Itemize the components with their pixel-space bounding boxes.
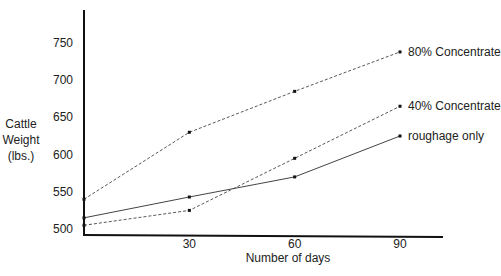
y-tick-label: 650 [53, 110, 73, 124]
data-point-marker [293, 175, 296, 178]
data-point-marker [83, 224, 86, 227]
y-axis-label-line: (lbs.) [8, 149, 35, 163]
series-roughage-only: roughage only [83, 129, 485, 219]
series-line [84, 106, 400, 225]
data-point-marker [293, 157, 296, 160]
series-label: roughage only [408, 129, 484, 143]
data-point-marker [399, 105, 402, 108]
series-label: 80% Concentrate [408, 45, 501, 59]
x-tick-label: 90 [393, 237, 407, 251]
axes [83, 10, 443, 237]
x-tick-labels: 306090 [183, 237, 407, 251]
data-point-marker [188, 196, 191, 199]
line-chart: 500550600650700750 306090 CattleWeight(l… [0, 0, 501, 276]
y-axis-label-line: Weight [2, 133, 40, 147]
data-point-marker [399, 135, 402, 138]
data-point-marker [399, 50, 402, 53]
y-axis-label-line: Cattle [5, 117, 37, 131]
y-tick-label: 500 [53, 222, 73, 236]
series-line [84, 52, 400, 199]
x-tick-label: 60 [288, 237, 302, 251]
y-tick-label: 700 [53, 73, 73, 87]
series-line [84, 136, 400, 218]
series-lines: 80% Concentrate40% Concentrateroughage o… [83, 45, 501, 227]
x-axis-label: Number of days [246, 251, 331, 265]
y-tick-label: 600 [53, 148, 73, 162]
data-point-marker [188, 209, 191, 212]
x-axis [83, 235, 443, 237]
data-point-marker [83, 216, 86, 219]
data-point-marker [188, 131, 191, 134]
y-tick-label: 750 [53, 36, 73, 50]
data-point-marker [83, 198, 86, 201]
y-axis-label: CattleWeight(lbs.) [2, 117, 40, 163]
series-label: 40% Concentrate [408, 99, 501, 113]
y-tick-label: 550 [53, 185, 73, 199]
y-tick-labels: 500550600650700750 [53, 36, 73, 236]
data-point-marker [293, 90, 296, 93]
series-40-concentrate: 40% Concentrate [83, 99, 501, 227]
x-tick-label: 30 [183, 237, 197, 251]
